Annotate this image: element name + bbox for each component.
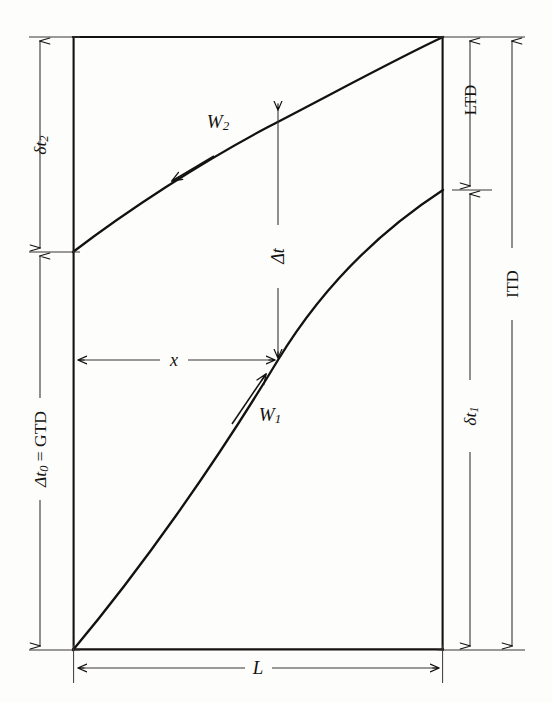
temperature-difference-diagram: δt2 Δt0 = GTD LTD [0, 0, 552, 703]
dimension-delta-t2: δt2 [30, 41, 51, 248]
dimension-itd: ITD [503, 41, 522, 646]
figure-root: δt2 Δt0 = GTD LTD [0, 0, 552, 703]
delta-t-label: Δt [268, 247, 288, 265]
x-label: x [169, 350, 178, 370]
L-label: L [252, 657, 264, 678]
delta-t0-gtd-label: Δt0 = GTD [30, 411, 51, 488]
w2-curve-group [73, 37, 443, 252]
delta-t2-base: δt [30, 140, 50, 154]
delta-t0-base: Δt [30, 471, 50, 488]
delta-t0-suffix: = GTD [30, 411, 50, 466]
exchanger-boundary-box [73, 37, 443, 650]
left-extension-lines [29, 37, 80, 650]
dimension-delta-t: Δt [268, 110, 288, 358]
delta-t2-label: δt2 [30, 135, 51, 154]
w2-temperature-curve [73, 37, 443, 252]
itd-label: ITD [503, 270, 522, 298]
w1-label: W1 [259, 404, 281, 426]
w2-subscript: 2 [223, 118, 230, 133]
delta-t2-subscript: 2 [37, 135, 51, 141]
w2-flow-arrow-icon [172, 156, 214, 181]
delta-t1-label: δt1 [460, 406, 481, 425]
ltd-label: LTD [461, 85, 480, 116]
delta-t1-subscript: 1 [467, 406, 481, 412]
w1-subscript: 1 [275, 411, 282, 426]
dimension-ltd: LTD [461, 41, 480, 186]
dimension-delta-t1: δt1 [460, 194, 481, 646]
dimension-x: x [78, 350, 275, 370]
dimension-delta-t0-gtd: Δt0 = GTD [30, 256, 51, 646]
dimension-L: L [74, 645, 443, 683]
delta-t1-base: δt [460, 411, 480, 425]
w2-label: W2 [207, 111, 230, 133]
